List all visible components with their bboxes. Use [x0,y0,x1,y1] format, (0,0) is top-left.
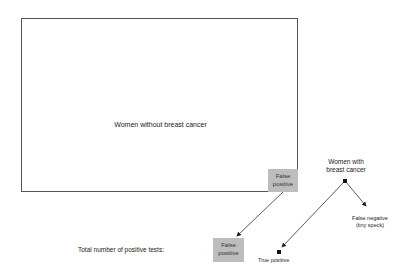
false-negative-label: False negative (tiny speck) [346,215,394,229]
true-positive-square [277,250,281,254]
wwc-line2: breast cancer [318,166,374,174]
fn-line1: False negative [346,215,394,222]
false-positive-result-box: False positive [213,238,244,262]
wwc-line1: Women with [318,158,374,166]
false-positive-corner-box: False positive [268,169,298,192]
fn-line2: (tiny speck) [346,222,394,229]
fp-corner-line2: positive [268,180,298,188]
cancer-square [343,179,347,183]
main-box-label: Women without breast cancer [22,121,299,128]
fp-corner-line1: False [268,172,298,180]
arrow-cancer-to-fn [346,182,366,206]
fp-result-line1: False [213,241,244,249]
true-positive-label: True positive [258,257,289,263]
fp-result-line2: positive [213,249,244,257]
women-with-cancer-label: Women with breast cancer [318,158,374,174]
arrow-fp-to-total [237,192,283,236]
total-positive-tests-label: Total number of positive tests: [78,246,164,253]
women-without-cancer-box: Women without breast cancer [21,18,298,192]
separator-dot: · [199,246,201,252]
